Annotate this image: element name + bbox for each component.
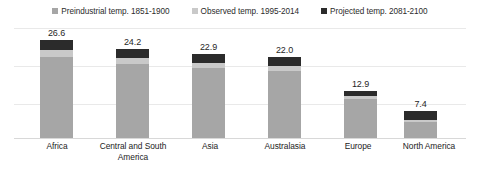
bar-segment-preindustrial: [116, 64, 149, 138]
bar-total-label: 24.2: [124, 37, 141, 47]
legend-swatch-observed: [192, 8, 198, 14]
bar-segment-projected: [192, 54, 225, 63]
bar-segment-projected: [404, 111, 437, 121]
plot-area: 26.624.222.922.012.97.4: [0, 24, 480, 139]
bar-group[interactable]: 22.9: [192, 42, 225, 138]
bar-total-label: 22.0: [276, 45, 293, 55]
legend-label-projected: Projected temp. 2081-2100: [330, 7, 428, 16]
bar-total-label: 22.9: [200, 42, 217, 52]
category-label: Asia: [175, 141, 245, 152]
bar-segment-observed: [40, 50, 73, 57]
bar-total-label: 12.9: [352, 79, 369, 89]
legend-label-preindustrial: Preindustrial temp. 1851-1900: [61, 7, 169, 16]
bar-group[interactable]: 24.2: [116, 37, 149, 138]
temperature-bar-chart: Preindustrial temp. 1851-1900 Observed t…: [0, 0, 480, 175]
gridline-30: [14, 28, 466, 29]
bar-total-label: 7.4: [414, 99, 426, 109]
legend-item-preindustrial: Preindustrial temp. 1851-1900: [52, 7, 169, 16]
category-label: Central and South America: [90, 141, 176, 162]
bar-stack: [192, 54, 225, 138]
gridline-20: [14, 66, 466, 67]
chart-legend: Preindustrial temp. 1851-1900 Observed t…: [0, 3, 480, 19]
bar-group[interactable]: 26.6: [40, 28, 73, 138]
bar-group[interactable]: 12.9: [344, 79, 377, 138]
bar-segment-preindustrial: [192, 68, 225, 138]
bar-segment-projected: [116, 49, 149, 58]
bar-stack: [268, 57, 301, 138]
bar-stack: [116, 49, 149, 138]
category-label: Australasia: [244, 141, 326, 152]
bar-stack: [40, 40, 73, 138]
bar-stack: [404, 111, 437, 138]
legend-item-observed: Observed temp. 1995-2014: [192, 7, 299, 16]
bar-segment-preindustrial: [404, 122, 437, 138]
bar-segment-preindustrial: [344, 99, 377, 138]
bar-segment-projected: [268, 57, 301, 65]
bar-group[interactable]: 22.0: [268, 45, 301, 138]
bar-stack: [344, 91, 377, 138]
bar-group[interactable]: 7.4: [404, 99, 437, 138]
axis-baseline: [14, 138, 466, 139]
category-label: Africa: [22, 141, 92, 152]
category-axis: AfricaCentral and South AmericaAsiaAustr…: [0, 141, 480, 175]
bar-segment-projected: [40, 40, 73, 50]
category-label: Europe: [323, 141, 393, 152]
bar-segment-preindustrial: [268, 71, 301, 138]
legend-item-projected: Projected temp. 2081-2100: [321, 7, 428, 16]
legend-label-observed: Observed temp. 1995-2014: [201, 7, 299, 16]
bar-total-label: 26.6: [48, 28, 65, 38]
bar-segment-preindustrial: [40, 57, 73, 138]
legend-swatch-preindustrial: [52, 8, 58, 14]
category-label: North America: [386, 141, 472, 152]
legend-swatch-projected: [321, 8, 327, 14]
gridline-10: [14, 104, 466, 105]
